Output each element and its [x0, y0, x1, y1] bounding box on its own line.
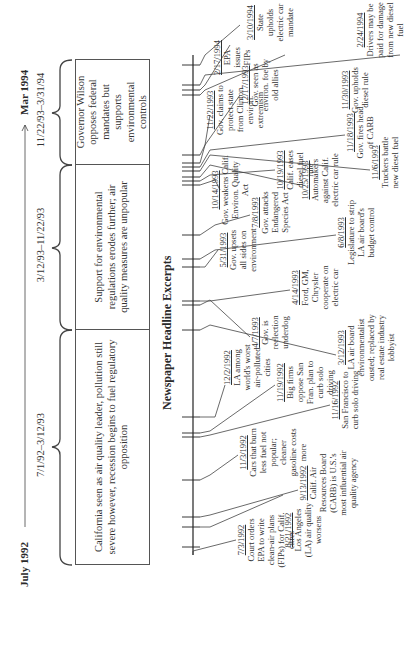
period-range-1: 7/1/92–3/12/93 [35, 395, 46, 495]
headline-item: 2/17/1994EPA issues FIPs [212, 40, 252, 75]
timeline-figure: July 1992 Mar 1994 [0, 0, 419, 655]
period-description-1: California seen as air quality leader, p… [93, 336, 131, 558]
headline-item: 4/14/1993Ford, GM, Chrysler cooperate on… [290, 260, 340, 315]
headline-item: 11/30/1993Gov. upholds diesel rule [340, 65, 370, 115]
period-box-2: Support for environmental regulations er… [75, 164, 150, 330]
headline-item: 10/25/1993Automakers against Calif. elec… [300, 150, 340, 210]
headline-item: 4/7/1993Gov. is reelection underdog [250, 310, 290, 355]
headline-item: 6/8/1993Legislature to strip LA air boar… [336, 200, 376, 265]
period-description-2: Support for environmental regulations er… [93, 171, 131, 323]
headline-item: 10/14/1993Gov. weakens Calif. Environ. Q… [210, 155, 250, 225]
period-range-2: 3/12/93–11/22/93 [35, 190, 46, 300]
section-title: Newspaper Headline Excerpts [160, 256, 175, 410]
headline-item: 3/12/1993LA air board environmentalist o… [336, 310, 396, 385]
period-box-1: California seen as air quality leader, p… [75, 329, 150, 565]
period-description-3: Governor Wilson opposes federal mandates… [75, 66, 150, 158]
period-range-3: 11/22/93–3/31/94 [35, 65, 46, 155]
headline-item: 2/24/1994Drivers may be paid for damage … [355, 0, 405, 60]
period-box-3: Governor Wilson opposes federal mandates… [75, 59, 150, 165]
headline-item: 11/3/1992Cars that burn less fuel not po… [238, 425, 308, 480]
headline-item: 11/19/1992Big firms oppose San Fran. pla… [275, 355, 335, 410]
headline-item: 3/10/1994State upholds electric car mand… [245, 0, 295, 45]
